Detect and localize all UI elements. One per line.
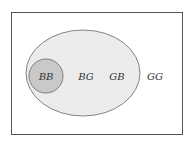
label-bg: BG xyxy=(77,71,94,82)
label-bb: BB xyxy=(38,71,54,82)
venn-diagram: BB BG GB GG xyxy=(0,0,191,143)
label-gb: GB xyxy=(109,71,124,82)
label-gg: GG xyxy=(147,71,163,82)
